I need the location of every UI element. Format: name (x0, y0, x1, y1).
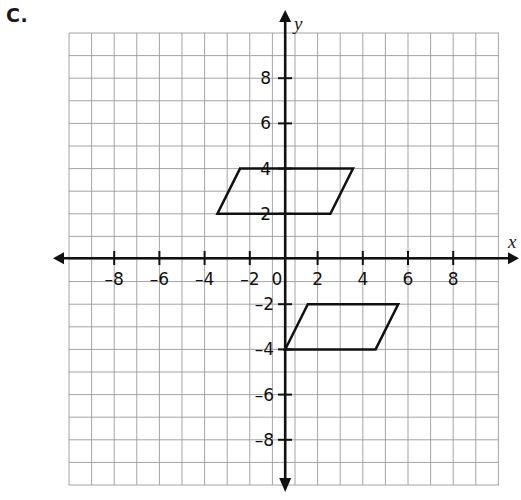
y-tick-label--2: –2 (255, 294, 274, 314)
x-tick-label--2: –2 (240, 269, 259, 289)
y-tick-label--6: –6 (255, 385, 274, 405)
y-axis-arrow-up (279, 10, 291, 22)
x-tick-label--6: –6 (150, 269, 169, 289)
coordinate-plane-figure: C. (0, 0, 521, 500)
y-tick-label-8: 8 (260, 68, 271, 88)
y-axis-label: y (292, 13, 303, 34)
x-tick-label--8: –8 (105, 269, 124, 289)
coordinate-grid-svg: –8 –6 –4 –2 0 2 4 6 8 8 6 4 2 –2 –4 –6 –… (0, 0, 521, 500)
y-tick-label--8: –8 (255, 430, 274, 450)
x-tick-label--4: –4 (195, 269, 214, 289)
y-tick-label--4: –4 (255, 339, 274, 359)
x-tick-label-8: 8 (448, 269, 459, 289)
x-tick-label-6: 6 (403, 269, 414, 289)
x-tick-label-2: 2 (312, 269, 323, 289)
x-axis-label: x (507, 231, 517, 252)
x-axis-arrow-right (508, 252, 519, 264)
y-tick-label-6: 6 (260, 113, 271, 133)
x-axis-arrow-left (53, 252, 64, 264)
x-tick-label-0: 0 (272, 269, 283, 289)
x-tick-label-4: 4 (357, 269, 368, 289)
